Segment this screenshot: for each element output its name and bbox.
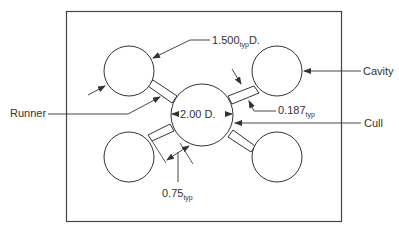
cavity-top-right: [252, 46, 302, 96]
cull-diameter-label: 2.00 D.: [180, 108, 215, 120]
runner-length-dim-arrow-a: [167, 152, 179, 160]
cavity-bottom-left: [104, 132, 154, 182]
runner-top-left: [148, 80, 177, 103]
mold-layout-diagram: 1.500typD. Cavity Runner Cull 2.00 D. 0.…: [0, 0, 399, 228]
cavity-diameter-leader: [153, 40, 210, 58]
runner-length-ext-2: [180, 143, 193, 164]
cavity-diameter-arrow-left: [88, 86, 105, 95]
runner-length-label: 0.75typ: [162, 187, 193, 202]
cavity-bottom-right: [252, 132, 302, 182]
cavity-label: Cavity: [363, 65, 394, 77]
runner-width-arrow-top: [232, 69, 241, 84]
runner-label: Runner: [10, 107, 46, 119]
runner-leader-arrow: [128, 97, 160, 114]
runner-bottom-right: [228, 130, 255, 152]
runner-top-right: [228, 86, 259, 104]
runner-bottom-left: [148, 124, 174, 141]
runner-width-label: 0.187typ: [278, 104, 315, 119]
cavity-diameter-label: 1.500typD.: [212, 34, 260, 49]
cavity-top-left: [104, 46, 154, 96]
runner-width-leader: [249, 101, 276, 111]
runner-length-dim-arrow-b: [179, 146, 189, 152]
cull-label: Cull: [364, 117, 383, 129]
